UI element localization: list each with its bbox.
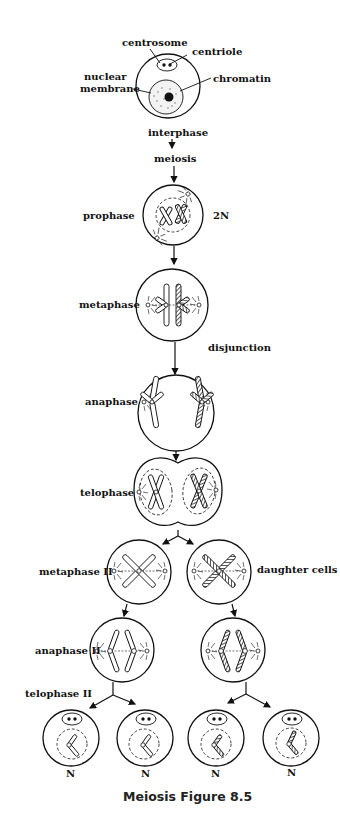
arrow-icon bbox=[124, 604, 127, 616]
label-meiosis: meiosis bbox=[154, 153, 197, 164]
interphase-cell bbox=[133, 49, 211, 118]
anaphase-ii-cell-right bbox=[201, 618, 265, 682]
telophase-cell bbox=[134, 458, 222, 526]
meiosis-diagram: centrosome centriole nuclear membrane ch… bbox=[0, 0, 340, 835]
telophase-ii-cell-3 bbox=[188, 710, 244, 766]
anaphase-cell bbox=[138, 375, 214, 451]
label-anaphase-ii: anaphase II bbox=[35, 645, 101, 656]
arrow-icon bbox=[246, 694, 270, 707]
arrow-icon bbox=[228, 694, 246, 703]
label-centrosome: centrosome bbox=[122, 37, 188, 48]
telophase-ii-cell-2 bbox=[117, 710, 173, 766]
label-disjunction: disjunction bbox=[208, 342, 272, 353]
label-chromatin: chromatin bbox=[213, 73, 272, 84]
label-interphase: interphase bbox=[148, 127, 208, 138]
arrow-icon bbox=[90, 695, 113, 708]
label-anaphase: anaphase bbox=[85, 396, 138, 407]
label-2n: 2N bbox=[213, 210, 229, 221]
prophase-cell bbox=[143, 185, 203, 247]
label-nuclear: nuclear bbox=[84, 71, 127, 82]
label-n-3: N bbox=[211, 768, 220, 779]
telophase-ii-cell-4 bbox=[263, 710, 319, 766]
arrow-icon bbox=[232, 604, 235, 616]
label-prophase: prophase bbox=[83, 210, 135, 221]
label-centriole: centriole bbox=[192, 46, 242, 57]
telophase-ii-cell-1 bbox=[43, 710, 99, 766]
label-n-1: N bbox=[66, 768, 75, 779]
nucleolus bbox=[165, 93, 174, 102]
metaphase-ii-cell-right bbox=[187, 540, 251, 604]
metaphase-cell bbox=[136, 269, 208, 341]
label-n-4: N bbox=[287, 767, 296, 778]
label-telophase-ii: telophase II bbox=[25, 688, 92, 699]
label-membrane: membrane bbox=[80, 83, 140, 94]
label-metaphase: metaphase bbox=[79, 299, 140, 310]
arrow-icon bbox=[163, 536, 178, 544]
label-daughter-cells: daughter cells bbox=[257, 564, 338, 575]
arrow-icon bbox=[113, 695, 135, 704]
label-telophase: telophase bbox=[80, 487, 134, 498]
metaphase-ii-cell-left bbox=[107, 540, 171, 604]
label-metaphase-ii: metaphase II bbox=[39, 566, 113, 577]
figure-caption: Meiosis Figure 8.5 bbox=[123, 789, 252, 804]
label-n-2: N bbox=[141, 768, 150, 779]
arrow-icon bbox=[178, 536, 193, 544]
